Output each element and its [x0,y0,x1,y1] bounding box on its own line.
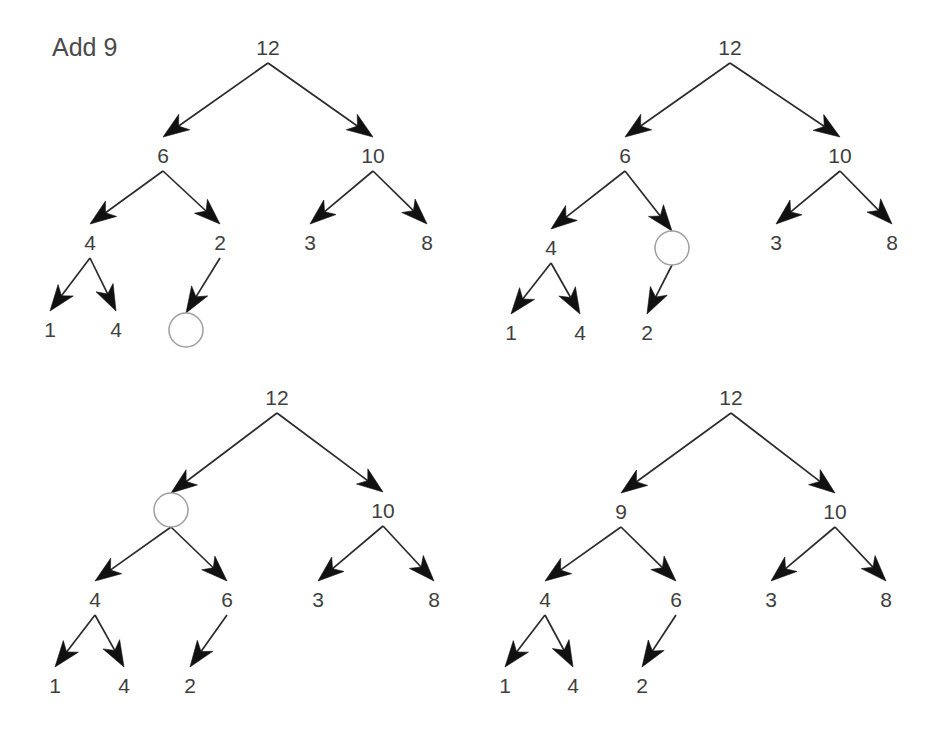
edge-line [835,527,873,567]
edge-line [110,527,171,570]
add-9-caption: Add 9 [52,33,117,61]
tree-node-label: 1 [505,321,517,344]
edge-line [730,63,824,127]
arrow-head-icon [642,640,664,667]
edge-line [785,527,835,569]
tree-node-label: 2 [184,674,196,697]
arrow-head-icon [776,200,802,224]
edge-line [268,63,358,126]
edge-line [163,171,206,211]
tree-node-label: 1 [499,674,511,697]
tree-edge [642,615,676,667]
arrow-head-icon [771,557,797,581]
tree-node-label: 6 [670,588,682,611]
empty-node-placeholder [169,313,203,347]
tree-node-label: 4 [567,674,579,697]
tree-edge [90,258,116,311]
tree-edge [625,63,730,137]
arrow-head-icon [186,286,208,313]
tree-node-label: 3 [765,588,777,611]
edge-line [840,171,879,211]
tree-node-label: 6 [221,588,233,611]
tree-edge [621,527,676,581]
edge-line [95,615,115,651]
arrow-head-icon [647,287,667,314]
tree-node-label: 4 [539,588,551,611]
tree-node-label: 4 [110,318,122,341]
edge-line [383,526,421,567]
tree-edge [840,171,892,224]
arrow-head-icon [559,287,580,314]
tree-edge [171,527,227,581]
tree-edge [731,413,835,493]
tree-node-label: 10 [371,499,394,522]
edge-line [66,615,95,652]
tree-node-label: 2 [214,231,226,254]
tree-node-label: 6 [619,144,631,167]
empty-node-placeholder [154,493,188,527]
tree-edge [190,615,227,667]
edge-line [178,63,268,126]
edge-line [277,413,368,481]
edge-line [545,615,564,651]
edge-line [652,615,676,651]
arrow-head-icon [103,640,124,667]
panel-1-before-insert: 12610423814 [44,36,433,347]
tree-node-label: 2 [641,321,653,344]
arrow-head-icon [190,640,213,667]
edge-line [516,615,545,652]
tree-edge [730,63,840,137]
edge-line [621,527,663,568]
arrow-head-icon [50,285,73,311]
empty-node-placeholder [655,231,689,265]
tree-node-label: 10 [828,144,851,167]
tree-node-label: 2 [636,674,648,697]
tree-node-label: 4 [89,588,101,611]
edge-line [551,263,571,298]
tree-node-label: 9 [615,500,627,523]
tree-edge [551,263,580,314]
tree-edge [771,527,835,581]
tree-node-label: 3 [312,588,324,611]
arrow-head-icon [648,205,672,231]
arrow-head-icon [171,470,197,493]
arrow-head-icon [96,283,116,311]
tree-edge [95,527,171,581]
tree-edge [383,526,434,581]
edge-line [61,258,90,296]
panel-2-swap-2-up: 12610438142 [505,36,898,344]
edge-line [186,413,277,482]
arrow-head-icon [625,114,652,137]
arrow-head-icon [813,115,840,137]
edge-line [332,526,383,569]
tree-edge [186,258,220,313]
edge-line [656,265,672,297]
tree-node-label: 4 [545,236,557,259]
tree-edge [647,265,672,314]
tree-node-label: 4 [574,321,586,344]
tree-node-label: 12 [718,36,741,59]
edge-line [566,171,625,217]
arrow-head-icon [95,558,122,581]
tree-node-label: 3 [770,231,782,254]
tree-edge [277,413,383,492]
tree-node-label: 8 [428,588,440,611]
edge-line [790,171,840,212]
edge-line [171,527,214,568]
edge-line [105,171,163,213]
tree-edge [511,263,551,314]
tree-edge [310,171,373,224]
tree-node-label: 1 [49,674,61,697]
tree-edge [545,615,573,667]
edge-line [560,527,621,570]
binary-tree-figure: 1261042381412610438142121046381421291046… [0,0,941,737]
tree-node-label: 10 [823,500,846,523]
panel-4-place-9: 129104638142 [499,386,892,697]
arrow-head-icon [310,200,336,224]
arrow-head-icon [809,470,835,493]
tree-node-label: 4 [118,674,130,697]
arrow-head-icon [552,640,573,667]
tree-node-label: 3 [304,231,316,254]
tree-edge [551,171,625,229]
tree-node-label: 4 [84,231,96,254]
